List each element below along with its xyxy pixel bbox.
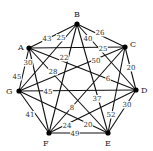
node-E — [105, 130, 110, 135]
node-label-G: G — [6, 87, 12, 96]
edge-weight-B-C: 26 — [96, 29, 105, 37]
edge-A-C — [29, 47, 125, 48]
node-label-B: B — [74, 10, 80, 19]
edge-weight-B-G: 25 — [57, 34, 66, 42]
edge-weight-A-C: 25 — [99, 45, 108, 53]
weighted-graph: 4326203049414525256283022374050852452024… — [0, 0, 153, 151]
edge-weight-C-F: 8 — [70, 104, 74, 112]
node-F — [46, 130, 51, 135]
edge-weight-G-E: 20 — [84, 121, 93, 129]
edge-weight-G-A: 45 — [13, 73, 22, 81]
edge-weight-F-G: 41 — [26, 111, 35, 119]
edge-weight-C-G: 50 — [92, 57, 101, 65]
edge-weight-G-D: 45 — [44, 88, 53, 96]
edge-weight-D-F: 24 — [63, 122, 72, 130]
edge-G-D — [19, 90, 136, 91]
node-G — [16, 88, 21, 93]
edge-weight-A-B: 43 — [43, 35, 52, 43]
node-label-C: C — [130, 40, 136, 49]
edge-weight-B-E: 37 — [93, 95, 102, 103]
edge-weight-C-D: 20 — [127, 64, 136, 72]
node-A — [26, 45, 31, 50]
node-label-D: D — [141, 86, 147, 95]
node-D — [133, 87, 138, 92]
node-C — [122, 44, 127, 49]
node-label-A: A — [17, 43, 24, 52]
edge-A-D — [29, 48, 136, 90]
edge-weight-B-F: 22 — [60, 54, 69, 62]
edge-weight-A-E: 28 — [49, 68, 58, 76]
node-B — [74, 21, 79, 26]
node-label-E: E — [105, 139, 111, 148]
edge-A-B — [29, 24, 77, 48]
edge-weight-A-D: 6 — [106, 75, 111, 83]
edge-weight-B-D: 40 — [84, 35, 93, 43]
edge-weight-C-E: 52 — [107, 111, 116, 119]
edge-weight-A-F: 30 — [24, 59, 33, 67]
edge-weight-E-F: 49 — [71, 130, 80, 138]
node-label-F: F — [43, 139, 49, 148]
edge-weight-D-E: 30 — [123, 101, 132, 109]
edges-layer — [19, 24, 136, 133]
